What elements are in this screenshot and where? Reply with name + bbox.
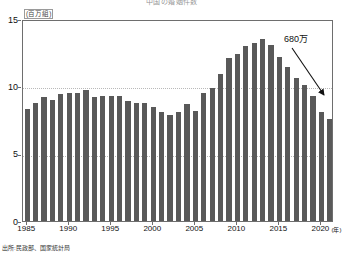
- bar: [167, 115, 172, 221]
- chart-page: 中国の婚姻件数 (百万組) 051015 1985199019952000200…: [0, 0, 344, 254]
- y-tick-mark-15: [18, 20, 21, 21]
- x-tick-label-2015: 2015: [269, 224, 287, 233]
- bar: [201, 93, 206, 221]
- source-note: 出所:民政部、国家統計局: [2, 244, 70, 252]
- bar: [25, 109, 30, 221]
- x-tick-label-1995: 1995: [101, 224, 119, 233]
- bar: [277, 57, 282, 221]
- x-tick-mark-2005: [194, 222, 195, 225]
- x-tick-mark-1985: [26, 222, 27, 225]
- y-tick-label-0: 0: [0, 218, 18, 227]
- bar: [285, 67, 290, 221]
- y-tick-label-10: 10: [0, 83, 18, 92]
- bar-series: [23, 21, 332, 221]
- bar: [319, 112, 324, 221]
- chart-title: 中国の婚姻件数: [0, 0, 344, 6]
- bar: [58, 94, 63, 221]
- x-tick-label-1990: 1990: [59, 224, 77, 233]
- bar: [33, 103, 38, 222]
- y-tick-label-5: 5: [0, 150, 18, 159]
- plot-area: [22, 20, 333, 222]
- x-tick-label-2000: 2000: [143, 224, 161, 233]
- bar: [302, 85, 307, 221]
- y-tick-mark-0: [18, 222, 21, 223]
- bar: [294, 78, 299, 221]
- bar: [235, 54, 240, 221]
- bar: [310, 96, 315, 221]
- bar: [176, 112, 181, 221]
- bar: [117, 96, 122, 221]
- x-tick-mark-1990: [68, 222, 69, 225]
- y-axis-unit-label: (百万組): [24, 9, 53, 19]
- bar: [151, 107, 156, 221]
- bar: [109, 96, 114, 221]
- y-tick-label-15: 15: [0, 16, 18, 25]
- bar: [50, 100, 55, 221]
- bar: [75, 93, 80, 221]
- bar: [184, 104, 189, 221]
- bar: [134, 103, 139, 222]
- x-tick-mark-2015: [278, 222, 279, 225]
- x-axis-unit-label: (年): [331, 225, 341, 234]
- bar: [125, 101, 130, 221]
- bar: [327, 119, 332, 221]
- bar: [210, 88, 215, 221]
- y-tick-mark-10: [18, 87, 21, 88]
- annotation-label-680man: 680万: [284, 34, 308, 44]
- x-tick-label-1985: 1985: [17, 224, 35, 233]
- x-tick-label-2010: 2010: [227, 224, 245, 233]
- bar: [159, 112, 164, 221]
- bar: [92, 97, 97, 221]
- bar: [83, 90, 88, 221]
- bar: [41, 97, 46, 221]
- x-tick-mark-2010: [236, 222, 237, 225]
- x-tick-mark-2020: [320, 222, 321, 225]
- bar: [226, 58, 231, 221]
- x-tick-label-2005: 2005: [185, 224, 203, 233]
- bar: [218, 74, 223, 221]
- x-tick-mark-2000: [152, 222, 153, 225]
- bar: [243, 46, 248, 221]
- bar: [260, 39, 265, 221]
- bar: [67, 93, 72, 221]
- bar: [142, 103, 147, 222]
- bar: [193, 111, 198, 221]
- bar: [252, 43, 257, 221]
- bar: [268, 45, 273, 221]
- x-tick-mark-1995: [110, 222, 111, 225]
- x-tick-label-2020: 2020: [311, 224, 329, 233]
- bar: [100, 96, 105, 221]
- y-tick-mark-5: [18, 155, 21, 156]
